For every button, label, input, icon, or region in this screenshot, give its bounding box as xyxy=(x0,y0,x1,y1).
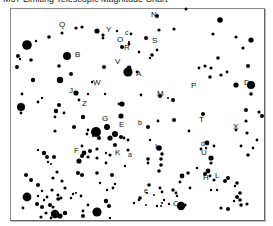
star-dot xyxy=(146,157,150,161)
star-dot xyxy=(118,103,121,106)
star-dot xyxy=(29,178,33,182)
star-dot xyxy=(127,139,130,142)
star-dot xyxy=(171,98,175,102)
star-dot xyxy=(130,33,133,36)
star-dot xyxy=(57,64,61,68)
star-dot xyxy=(80,173,84,177)
star-dot xyxy=(57,77,63,83)
star-dot xyxy=(72,125,76,129)
star-dot xyxy=(198,67,201,70)
star-label: D xyxy=(244,78,250,87)
star-dot xyxy=(82,210,85,213)
star-dot xyxy=(86,155,89,158)
star-dot xyxy=(80,25,83,28)
star-label: a xyxy=(128,151,132,158)
star-dot xyxy=(52,155,56,159)
star-dot xyxy=(156,49,159,52)
star-dot xyxy=(157,169,161,173)
star-dot xyxy=(80,154,84,158)
star-dot xyxy=(112,131,118,137)
star-dot xyxy=(51,176,54,179)
star-dot xyxy=(159,163,163,167)
star-label: O xyxy=(117,35,123,44)
star-dot xyxy=(203,64,206,67)
star-dot xyxy=(233,200,235,202)
star-dot xyxy=(94,28,99,33)
star-dot xyxy=(244,119,247,122)
star-dot xyxy=(105,152,107,154)
star-dot xyxy=(176,195,178,197)
star-dot xyxy=(110,173,114,177)
star-dot xyxy=(86,133,89,136)
star-dot xyxy=(156,205,158,207)
star-label: Z xyxy=(82,99,87,108)
star-label: H xyxy=(203,173,209,182)
star-dot xyxy=(50,163,52,165)
star-dot xyxy=(249,92,253,96)
star-dot xyxy=(226,207,230,211)
star-dot xyxy=(160,205,162,207)
star-dot xyxy=(112,187,115,190)
star-dot xyxy=(95,156,98,159)
star-dot xyxy=(217,17,223,23)
star-dot xyxy=(114,183,116,185)
star-label: X xyxy=(233,122,239,131)
star-dot xyxy=(257,110,260,113)
star-dot xyxy=(248,37,253,42)
star-dot xyxy=(63,211,67,215)
star-dot xyxy=(240,145,243,148)
star-dot xyxy=(216,56,220,60)
star-label: V xyxy=(115,57,121,66)
star-label: Q xyxy=(59,20,65,29)
star-dot xyxy=(196,167,198,169)
star-dot xyxy=(113,143,117,147)
star-label: R xyxy=(124,43,130,52)
star-dot xyxy=(42,151,46,155)
star-dot xyxy=(226,176,230,180)
star-label: J xyxy=(69,86,73,95)
star-dot xyxy=(41,97,43,99)
star-dot xyxy=(47,161,49,163)
star-dot xyxy=(223,179,227,183)
star-dot xyxy=(209,175,212,178)
star-label: T xyxy=(199,115,204,124)
star-dot xyxy=(63,186,66,189)
star-dot xyxy=(180,174,185,179)
star-dot xyxy=(219,73,222,76)
star-dot xyxy=(56,193,59,196)
star-label: B xyxy=(75,50,80,59)
star-dot xyxy=(106,189,108,191)
star-label: d xyxy=(201,140,205,147)
star-dot xyxy=(244,108,248,112)
star-dot xyxy=(63,112,66,115)
star-label: F xyxy=(74,146,79,155)
star-dot xyxy=(57,103,61,107)
star-dot xyxy=(102,37,105,40)
star-dot xyxy=(235,195,239,199)
star-dot xyxy=(101,33,104,36)
star-dot xyxy=(107,135,112,140)
star-dot xyxy=(188,130,191,133)
star-dot xyxy=(116,30,118,32)
star-dot xyxy=(107,204,111,208)
star-dot xyxy=(260,114,264,118)
star-dot xyxy=(104,124,110,130)
star-dot xyxy=(219,206,222,209)
star-field: NQYcORSBVAWJMPDZGEbTXFKaIdUHLeC xyxy=(0,0,273,226)
star-dot xyxy=(78,99,81,102)
star-dot xyxy=(53,129,56,132)
star-label: Y xyxy=(106,25,112,34)
star-dot xyxy=(63,52,71,60)
star-dot xyxy=(171,188,175,192)
star-dot xyxy=(15,65,19,69)
star-dot xyxy=(238,198,242,202)
star-dot xyxy=(172,118,176,122)
star-dot xyxy=(104,199,108,203)
star-dot xyxy=(209,161,212,164)
star-dot xyxy=(149,57,151,59)
star-dot xyxy=(208,155,213,160)
star-label: E xyxy=(119,120,124,129)
star-dot xyxy=(124,165,126,167)
star-dot xyxy=(146,125,150,129)
star-label: G xyxy=(102,114,108,123)
